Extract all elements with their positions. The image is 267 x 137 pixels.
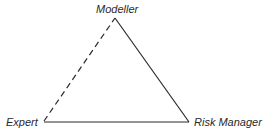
node-label-risk-manager: Risk Manager: [194, 117, 262, 128]
node-label-modeller: Modeller: [96, 4, 138, 15]
edge-modeller-risk-manager: [115, 18, 189, 122]
node-label-expert: Expert: [6, 117, 38, 128]
triangle-diagram: Modeller Expert Risk Manager: [0, 0, 267, 137]
edge-expert-modeller: [44, 18, 115, 121]
